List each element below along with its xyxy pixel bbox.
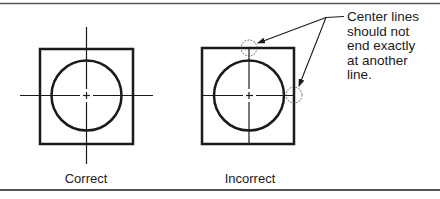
note-line: at another bbox=[347, 53, 408, 68]
note-line: should not bbox=[347, 24, 410, 39]
correct-caption: Correct bbox=[65, 171, 108, 186]
note-line: line. bbox=[347, 67, 372, 82]
leader-lines bbox=[258, 17, 344, 87]
leader-stub bbox=[326, 17, 344, 18]
arrow-to-top-circle bbox=[258, 18, 326, 44]
note-text: Center lines should not end exactly at a… bbox=[347, 9, 419, 82]
note-line: end exactly bbox=[347, 38, 416, 53]
incorrect-caption: Incorrect bbox=[225, 171, 276, 186]
arrow-to-right-circle bbox=[299, 18, 326, 87]
centerline-diagram: Correct Incorrect Center lines sh bbox=[0, 0, 440, 199]
incorrect-example: Incorrect bbox=[202, 40, 302, 186]
correct-example: Correct bbox=[20, 27, 153, 186]
note-line: Center lines bbox=[347, 9, 419, 24]
